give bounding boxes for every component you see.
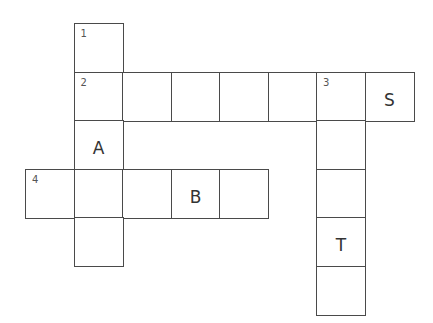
crossword-cell[interactable]: T — [316, 217, 366, 267]
cell-letter — [317, 267, 365, 315]
crossword-cell[interactable] — [316, 169, 366, 219]
cell-letter — [75, 24, 123, 72]
crossword-cell[interactable] — [122, 72, 172, 122]
cell-letter — [269, 73, 317, 121]
cell-letter: A — [75, 121, 123, 169]
crossword-cell[interactable] — [316, 266, 366, 316]
crossword-cell[interactable]: 2 — [74, 72, 124, 122]
crossword-cell[interactable] — [268, 72, 318, 122]
crossword-cell[interactable] — [122, 169, 172, 219]
crossword-cell[interactable]: 3 — [316, 72, 366, 122]
cell-letter — [317, 73, 365, 121]
cell-letter: S — [366, 73, 414, 121]
crossword-cell[interactable]: 1 — [74, 23, 124, 73]
crossword-cell[interactable] — [219, 72, 269, 122]
cell-letter — [317, 121, 365, 169]
cell-letter — [220, 73, 268, 121]
cell-letter — [172, 73, 220, 121]
cell-letter — [75, 73, 123, 121]
cell-letter: T — [317, 218, 365, 266]
cell-letter: B — [172, 170, 220, 218]
cell-letter — [26, 170, 74, 218]
crossword-cell[interactable] — [171, 72, 221, 122]
crossword-cell[interactable]: A — [74, 120, 124, 170]
cell-letter — [317, 170, 365, 218]
cell-letter — [123, 73, 171, 121]
crossword-cell[interactable]: S — [365, 72, 415, 122]
crossword-cell[interactable]: 4 — [25, 169, 75, 219]
cell-letter — [75, 170, 123, 218]
crossword-grid: 123SA4BT — [0, 0, 433, 323]
cell-letter — [220, 170, 268, 218]
crossword-cell[interactable] — [74, 217, 124, 267]
cell-letter — [75, 218, 123, 266]
crossword-cell[interactable] — [219, 169, 269, 219]
crossword-cell[interactable]: B — [171, 169, 221, 219]
crossword-cell[interactable] — [316, 120, 366, 170]
crossword-cell[interactable] — [74, 169, 124, 219]
cell-letter — [123, 170, 171, 218]
